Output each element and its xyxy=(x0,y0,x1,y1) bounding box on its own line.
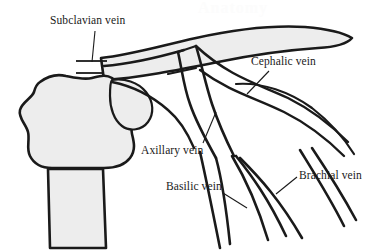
brachial-vein-vessel-branch-three xyxy=(240,158,302,238)
clavicle-bone xyxy=(101,27,352,80)
basilic-vein-vessel-lateral-wall xyxy=(216,158,230,244)
cephalic-vein-vessel-lower-wall xyxy=(200,70,344,156)
brachial-vein-vessel-branch-two xyxy=(236,156,286,236)
leader-line-subclavian xyxy=(92,31,95,62)
label-axillary-vein: Axillary vein xyxy=(141,145,203,157)
anatomy-figure: Anatomy xyxy=(0,0,380,252)
leader-line-brachial xyxy=(276,177,297,194)
label-subclavian-vein: Subclavian vein xyxy=(50,15,125,27)
label-brachial-vein: Brachial vein xyxy=(299,170,362,182)
label-basilic-vein: Basilic vein xyxy=(166,181,222,193)
leader-line-axillary xyxy=(203,112,216,143)
label-cephalic-vein: Cephalic vein xyxy=(251,56,316,68)
anatomy-illustration xyxy=(0,0,380,252)
humerus-bone xyxy=(48,169,106,248)
